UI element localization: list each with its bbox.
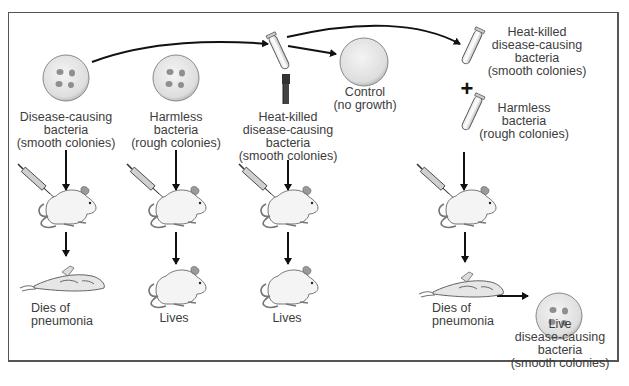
- live-mouse-icon: [39, 186, 96, 227]
- outcome-col1: Dies of pneumonia: [31, 302, 93, 328]
- petri-dish-icon: [153, 55, 199, 101]
- outcome-col2: Lives: [159, 312, 188, 325]
- dead-mouse-icon: [20, 266, 104, 291]
- outcome-col4: Dies of pneumonia: [432, 302, 494, 328]
- label-heat-killed-mix: Heat-killed disease-causing bacteria (sm…: [488, 26, 587, 78]
- arrow-to-control: [288, 46, 336, 54]
- plus-symbol: +: [461, 79, 474, 99]
- test-tube-icon: [460, 27, 485, 66]
- petri-dish-icon: [340, 38, 388, 86]
- result-live-bacteria: Live disease-causing bacteria (smooth co…: [511, 318, 610, 370]
- label-harmless: Harmless bacteria (rough colonies): [131, 111, 221, 150]
- label-disease-causing: Disease-causing bacteria (smooth colonie…: [17, 111, 116, 150]
- live-mouse-icon: [261, 266, 318, 307]
- bunsen-burner-icon: [282, 74, 290, 104]
- label-harmless-mix: Harmless bacteria (rough colonies): [479, 102, 569, 141]
- petri-dish-icon: [43, 55, 89, 101]
- outcome-col3: Lives: [272, 312, 301, 325]
- live-mouse-icon: [149, 266, 206, 307]
- label-control: Control (no growth): [333, 86, 396, 112]
- label-heat-killed: Heat-killed disease-causing bacteria (sm…: [239, 111, 338, 163]
- dead-mouse-icon: [419, 272, 503, 297]
